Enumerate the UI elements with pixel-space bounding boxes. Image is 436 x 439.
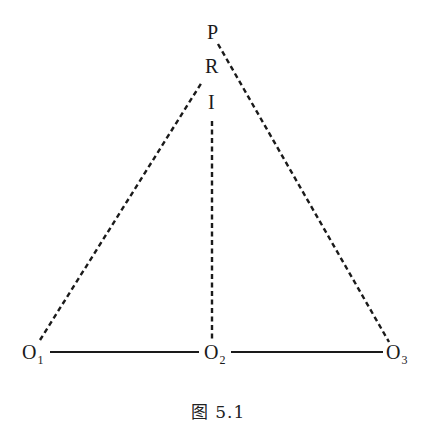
label-o2-sub: 2 bbox=[219, 353, 225, 367]
label-o2: O2 bbox=[204, 342, 225, 362]
label-o1-sub: 1 bbox=[37, 353, 43, 367]
dashed-line-p-to-o3 bbox=[218, 44, 389, 342]
label-i: I bbox=[208, 92, 215, 112]
label-o3-main: O bbox=[386, 341, 400, 363]
label-o2-main: O bbox=[204, 341, 218, 363]
label-o3: O3 bbox=[386, 342, 407, 362]
dashed-line-o1-to-r bbox=[40, 82, 202, 340]
label-o1-main: O bbox=[22, 341, 36, 363]
label-r: R bbox=[205, 56, 218, 76]
label-o1: O1 bbox=[22, 342, 43, 362]
label-p: P bbox=[207, 22, 218, 42]
figure-caption: 图 5.1 bbox=[0, 398, 436, 423]
label-o3-sub: 3 bbox=[401, 353, 407, 367]
